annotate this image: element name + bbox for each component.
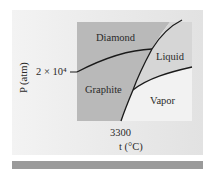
x-axis-label: t (°C) <box>119 141 143 153</box>
y-axis-label: P (atm) <box>18 62 30 93</box>
x-tick-label: 3300 <box>110 127 131 138</box>
region-label-liquid: Liquid <box>156 51 185 62</box>
region-label-graphite: Graphite <box>85 84 122 95</box>
region-label-vapor: Vapor <box>150 95 176 106</box>
y-tick-label: 2 × 10⁴ <box>36 66 67 77</box>
region-label-diamond: Diamond <box>96 32 136 43</box>
phase-diagram: Diamond Liquid Graphite Vapor 2 × 10⁴ P … <box>0 0 215 181</box>
